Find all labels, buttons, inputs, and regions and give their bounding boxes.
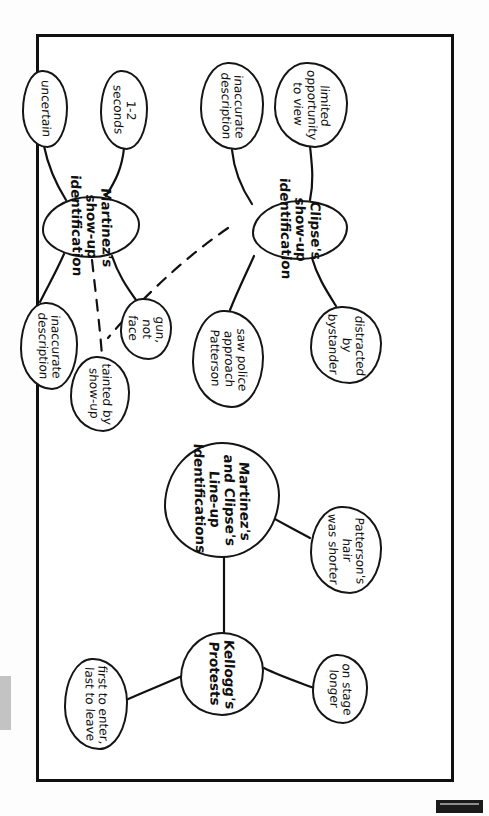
edge-clipse-inaccurate-description: [232, 150, 252, 204]
node-gun-not-face[interactable]: gun, not face: [120, 298, 172, 360]
node-saw-police-approach-patterson[interactable]: saw police approach Patterson: [192, 310, 264, 408]
node-on-stage-longer[interactable]: on stage longer: [312, 654, 368, 724]
node-uncertain[interactable]: uncertain: [22, 70, 68, 148]
node-lineup-identifications[interactable]: Martinez's and Clipse's Line-up Identifi…: [164, 442, 280, 558]
scanned-page: Clipse's show-up identification limited …: [0, 0, 489, 816]
node-distracted-by-bystander[interactable]: distracted by bystander: [310, 306, 382, 384]
edge-martinez-uncertain: [44, 146, 66, 200]
node-clipses-show-up-identification[interactable]: Clipse's show-up identification: [252, 200, 348, 260]
edge-kelloggs-on-stage-longer: [264, 668, 314, 688]
node-1-2-seconds[interactable]: 1-2 seconds: [100, 70, 148, 150]
scan-artifact-left-strip: [0, 676, 11, 730]
edge-martinez-inaccurate-description: [40, 254, 64, 302]
node-clipse-inaccurate-description[interactable]: inaccurate description: [200, 62, 264, 150]
node-martinezs-show-up-identification[interactable]: Martinez's show-up identification: [42, 196, 140, 258]
edge-kelloggs-first-last: [126, 676, 182, 700]
node-tainted-by-show-up[interactable]: tainted by show-up: [70, 356, 130, 432]
mind-map-canvas: Clipse's show-up identification limited …: [30, 28, 460, 788]
node-pattersons-hair-was-shorter[interactable]: Patterson's hair was shorter: [310, 506, 382, 594]
node-martinez-inaccurate-description[interactable]: inaccurate description: [20, 302, 78, 390]
scan-artifact-bottom-block: [436, 800, 483, 813]
node-kelloggs-protests[interactable]: Kellogg's Protests: [180, 632, 264, 716]
node-limited-opportunity-to-view[interactable]: limited opportunity to view: [274, 62, 348, 148]
node-first-to-enter-last-to-leave[interactable]: first to enter, last to leave: [64, 658, 128, 750]
edge-clipse-saw-police: [230, 256, 254, 310]
